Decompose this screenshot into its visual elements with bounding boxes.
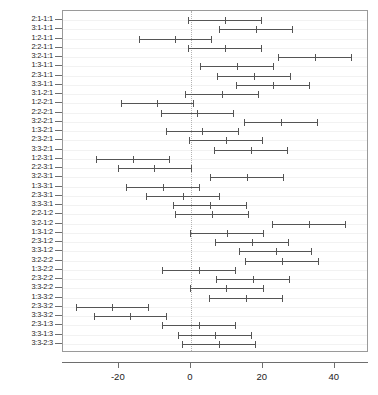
- y-axis-tick: [55, 223, 62, 224]
- y-axis-tick-label: 2:3-2:1: [31, 136, 53, 143]
- interval-lower-cap: [162, 267, 163, 274]
- interval-upper-cap: [311, 248, 312, 255]
- interval-point-estimate: [202, 128, 203, 135]
- interval-lower-cap: [239, 248, 240, 255]
- interval-lower-cap: [185, 91, 186, 98]
- interval-point-estimate: [210, 202, 211, 209]
- y-axis-tick: [55, 167, 62, 168]
- interval-upper-cap: [263, 230, 264, 237]
- y-axis-tick: [55, 241, 62, 242]
- y-axis-tick-label: 2:3-3:2: [31, 302, 53, 309]
- interval-point-estimate: [157, 100, 158, 107]
- interval-segment: [118, 164, 192, 173]
- interval-segment: [161, 109, 235, 118]
- interval-lower-cap: [245, 258, 246, 265]
- interval-point-estimate: [197, 110, 198, 117]
- y-axis-tick-label: 3:3-1:3: [31, 330, 53, 337]
- interval-point-estimate: [281, 119, 282, 126]
- interval-lower-cap: [126, 184, 127, 191]
- interval-lower-cap: [236, 82, 237, 89]
- y-axis-tick: [55, 315, 62, 316]
- interval-lower-cap: [217, 73, 218, 80]
- interval-upper-cap: [166, 313, 167, 320]
- y-axis-tick-label: 1:2-1:1: [31, 34, 53, 41]
- y-axis-tick: [55, 84, 62, 85]
- interval-point-estimate: [315, 54, 316, 61]
- interval-upper-cap: [251, 332, 252, 339]
- interval-point-estimate: [256, 26, 257, 33]
- y-axis-tick-label: 3:2-3:1: [31, 173, 53, 180]
- y-axis-tick-label: 1:3-2:2: [31, 265, 53, 272]
- interval-lower-cap: [190, 285, 191, 292]
- interval-point-estimate: [254, 73, 255, 80]
- interval-lower-cap: [166, 128, 167, 135]
- panel-guide-line: [63, 187, 367, 188]
- y-axis-tick: [55, 343, 62, 344]
- interval-upper-cap: [287, 147, 288, 154]
- interval-upper-cap: [262, 137, 263, 144]
- y-axis-tick: [55, 112, 62, 113]
- interval-upper-cap: [283, 174, 284, 181]
- interval-point-estimate: [273, 82, 274, 89]
- interval-point-estimate: [252, 239, 253, 246]
- interval-upper-cap: [211, 36, 212, 43]
- interval-upper-cap: [309, 82, 310, 89]
- interval-lower-cap: [162, 322, 163, 329]
- y-axis-tick: [55, 213, 62, 214]
- interval-upper-cap: [248, 211, 249, 218]
- interval-lower-cap: [216, 276, 217, 283]
- y-axis-tick-label: 3:1-1:1: [31, 25, 53, 32]
- interval-lower-cap: [244, 119, 245, 126]
- y-axis-tick: [55, 75, 62, 76]
- interval-segment: [189, 136, 263, 145]
- y-axis-tick: [55, 278, 62, 279]
- interval-segment: [175, 210, 249, 219]
- y-axis-tick-label: 2:3-1:2: [31, 237, 53, 244]
- y-axis-tick: [55, 204, 62, 205]
- interval-segment: [278, 53, 352, 62]
- interval-segment: [173, 201, 247, 210]
- panel-guide-line: [63, 85, 367, 86]
- y-axis-tick: [55, 260, 62, 261]
- interval-segment: [239, 247, 313, 256]
- interval-segment: [126, 183, 200, 192]
- interval-segment: [188, 44, 262, 53]
- confidence-interval-plot: 2:1-1:13:1-1:11:2-1:12:2-1:13:2-1:11:3-1…: [0, 0, 378, 395]
- interval-upper-cap: [246, 202, 247, 209]
- interval-upper-cap: [282, 295, 283, 302]
- interval-lower-cap: [121, 100, 122, 107]
- y-axis-tick: [55, 324, 62, 325]
- interval-point-estimate: [226, 285, 227, 292]
- y-axis: 2:1-1:13:1-1:11:2-1:12:2-1:13:2-1:11:3-1…: [0, 10, 62, 352]
- y-axis-tick: [55, 297, 62, 298]
- y-axis-tick-label: 3:3-1:2: [31, 247, 53, 254]
- interval-lower-cap: [94, 313, 95, 320]
- interval-point-estimate: [237, 63, 238, 70]
- interval-segment: [190, 229, 264, 238]
- y-axis-tick-label: 3:3-2:2: [31, 284, 53, 291]
- interval-segment: [146, 192, 220, 201]
- interval-upper-cap: [199, 184, 200, 191]
- interval-point-estimate: [133, 156, 134, 163]
- interval-lower-cap: [182, 341, 183, 348]
- panel-guide-line: [63, 279, 367, 280]
- interval-lower-cap: [96, 156, 97, 163]
- y-axis-tick: [55, 269, 62, 270]
- y-axis-tick-label: 3:2-1:1: [31, 53, 53, 60]
- y-axis-tick: [55, 334, 62, 335]
- interval-lower-cap: [118, 165, 119, 172]
- interval-point-estimate: [212, 211, 213, 218]
- interval-segment: [216, 275, 290, 284]
- interval-point-estimate: [199, 322, 200, 329]
- x-axis-tick-label: 0: [187, 371, 192, 382]
- interval-upper-cap: [351, 54, 352, 61]
- y-axis-tick-label: 1:3-1:1: [31, 62, 53, 69]
- panel-guide-line: [63, 76, 367, 77]
- interval-lower-cap: [190, 230, 191, 237]
- interval-point-estimate: [112, 304, 113, 311]
- interval-segment: [121, 99, 195, 108]
- interval-segment: [188, 16, 262, 25]
- interval-segment: [76, 303, 150, 312]
- interval-segment: [96, 155, 170, 164]
- interval-segment: [139, 35, 213, 44]
